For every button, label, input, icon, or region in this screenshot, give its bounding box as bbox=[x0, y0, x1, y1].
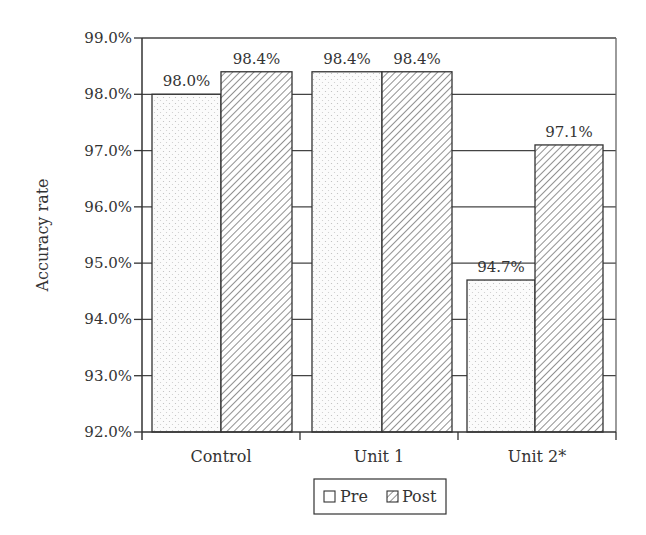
legend-swatch-pre bbox=[324, 491, 335, 502]
bar-post bbox=[382, 72, 452, 432]
x-category-label: Control bbox=[190, 447, 251, 466]
y-axis-title: Accuracy rate bbox=[33, 178, 52, 292]
bar-pre bbox=[467, 280, 535, 432]
bar-value-label: 97.1% bbox=[545, 123, 593, 141]
y-tick-label: 92.0% bbox=[84, 423, 132, 441]
y-tick-label: 99.0% bbox=[84, 29, 132, 47]
bar-chart: 92.0%93.0%94.0%95.0%96.0%97.0%98.0%99.0%… bbox=[0, 0, 646, 535]
bar-post bbox=[535, 145, 603, 432]
bar-post bbox=[221, 72, 292, 432]
legend-swatch-post bbox=[387, 491, 398, 502]
bar-value-label: 94.7% bbox=[477, 258, 525, 276]
bar-value-label: 98.4% bbox=[323, 50, 371, 68]
y-tick-label: 97.0% bbox=[84, 142, 132, 160]
y-tick-label: 98.0% bbox=[84, 85, 132, 103]
plot-area: 92.0%93.0%94.0%95.0%96.0%97.0%98.0%99.0%… bbox=[33, 29, 616, 514]
y-tick-label: 94.0% bbox=[84, 310, 132, 328]
y-tick-label: 96.0% bbox=[84, 198, 132, 216]
bar-value-label: 98.0% bbox=[163, 72, 211, 90]
x-category-label: Unit 1 bbox=[354, 447, 405, 466]
bar-value-label: 98.4% bbox=[233, 50, 281, 68]
legend-label-pre: Pre bbox=[340, 487, 368, 506]
x-category-label: Unit 2* bbox=[508, 447, 567, 466]
bar-pre bbox=[312, 72, 382, 432]
bar-value-label: 98.4% bbox=[393, 50, 441, 68]
bar-pre bbox=[152, 94, 221, 432]
y-tick-label: 95.0% bbox=[84, 254, 132, 272]
legend-label-post: Post bbox=[402, 487, 437, 506]
y-tick-label: 93.0% bbox=[84, 367, 132, 385]
